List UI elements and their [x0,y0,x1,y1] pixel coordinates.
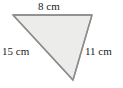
triangle-shape [0,0,123,88]
label-left-side: 15 cm [2,45,29,57]
label-right-side: 11 cm [85,45,112,57]
label-top-side: 8 cm [38,0,60,12]
geometry-figure: 8 cm 15 cm 11 cm [0,0,123,88]
